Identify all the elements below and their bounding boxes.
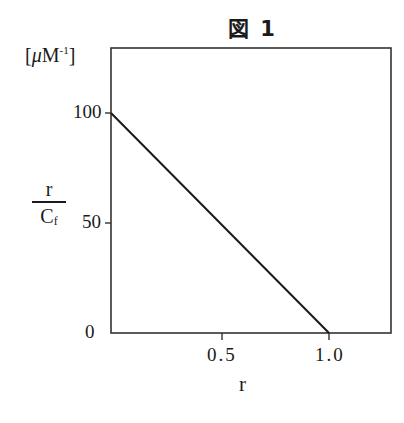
y-tick-label-50: 50 bbox=[82, 211, 101, 233]
x-tick-label-0.5: 0.5 bbox=[207, 344, 237, 366]
y-tick-label-100: 100 bbox=[73, 101, 102, 123]
x-tick-label-1.0: 1.0 bbox=[315, 344, 345, 366]
y-tick-label-0: 0 bbox=[85, 321, 95, 343]
data-line bbox=[111, 113, 329, 333]
figure: 図 1 [μM-1] r Cf 100 50 0 0.5 1.0 r bbox=[0, 0, 404, 423]
plot-frame bbox=[111, 48, 391, 333]
x-axis-label: r bbox=[239, 372, 246, 397]
